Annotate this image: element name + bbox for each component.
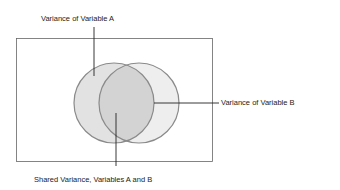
venn-diagram [0, 0, 340, 190]
label-variance-a: Variance of Variable A [41, 15, 114, 23]
label-shared-variance: Shared Variance, Variables A and B [34, 176, 152, 184]
label-variance-b: Variance of Variable B [221, 99, 295, 107]
